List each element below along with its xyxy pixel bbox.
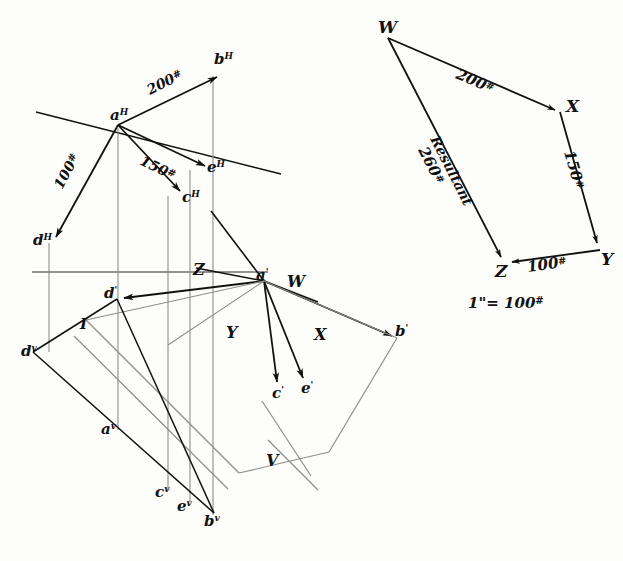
- label-vertex-x: X: [565, 96, 580, 116]
- label-c-prime: c': [272, 384, 284, 402]
- label-plane-v: V: [266, 451, 280, 470]
- label-e-v: ev: [177, 497, 193, 515]
- label-force-100-polygon: 100#: [526, 253, 568, 276]
- label-ray-w: W: [287, 272, 307, 291]
- label-vertex-w: W: [378, 17, 399, 37]
- label-b-v: bv: [204, 512, 221, 530]
- label-ray-x: X: [313, 325, 327, 344]
- label-b-prime: b': [395, 322, 408, 340]
- label-c-v: cv: [155, 483, 170, 501]
- space-diagram-group: aH bH cH dH eH 200# 150# 100#: [21, 50, 408, 530]
- label-vertex-y: Y: [601, 249, 615, 269]
- label-force-150-horizontal: 150#: [138, 152, 179, 183]
- label-e-prime: e': [301, 379, 313, 397]
- drawing-sheet: aH bH cH dH eH 200# 150# 100#: [0, 0, 623, 561]
- v-projection-outline: [33, 299, 214, 513]
- label-c-h: cH: [182, 188, 200, 206]
- label-force-100-horizontal: 100#: [51, 151, 83, 192]
- label-b-h: bH: [214, 50, 234, 68]
- technical-drawing-canvas: aH bH cH dH eH 200# 150# 100#: [0, 0, 623, 561]
- ray-toward-w-left: [196, 268, 264, 281]
- label-e-h: eH: [207, 158, 226, 176]
- label-plane-h: I: [79, 315, 88, 333]
- label-force-150-polygon: 150#: [560, 148, 588, 191]
- label-ray-z: Z: [192, 260, 206, 279]
- label-force-200-polygon: 200#: [453, 65, 498, 97]
- label-scale-note: 1"= 100#: [468, 294, 544, 312]
- label-d-v: dv: [21, 342, 38, 360]
- label-d-h: dH: [33, 231, 53, 249]
- label-vertex-z: Z: [494, 261, 508, 281]
- force-polygon-group: W X Y Z 200# 150# 100# Resultant 260# 1"…: [378, 17, 615, 312]
- label-force-200-horizontal: 200#: [143, 66, 185, 98]
- label-ray-y: Y: [226, 323, 239, 342]
- label-a-v: av: [101, 420, 117, 438]
